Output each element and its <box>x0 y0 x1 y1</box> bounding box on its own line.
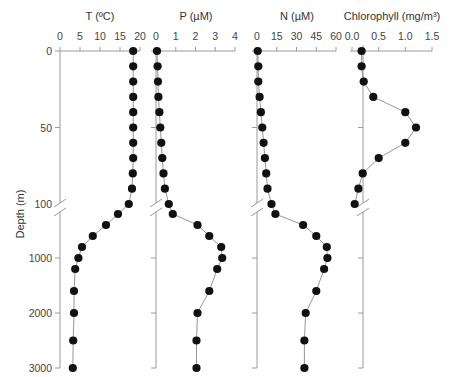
depth-tick-label: 100 <box>34 198 52 210</box>
data-point <box>263 185 271 193</box>
data-point <box>401 139 409 147</box>
profile-line <box>73 51 133 368</box>
depth-tick-label: 50 <box>40 122 52 134</box>
data-point <box>154 62 162 70</box>
data-point <box>161 185 169 193</box>
x-tick-label: 2 <box>193 30 199 42</box>
data-point <box>358 47 366 55</box>
data-point <box>254 78 262 86</box>
data-point <box>154 78 162 86</box>
data-point <box>159 169 167 177</box>
data-point <box>193 309 201 317</box>
data-point <box>258 123 266 131</box>
data-point <box>300 364 308 372</box>
panel-title: P (µM) <box>179 10 212 22</box>
data-point <box>129 47 137 55</box>
data-point <box>401 108 409 116</box>
panel-n: N (µM)015304560 <box>251 10 342 372</box>
data-point <box>129 169 137 177</box>
data-point <box>312 232 320 240</box>
data-point <box>71 265 79 273</box>
data-point <box>129 139 137 147</box>
data-point <box>89 232 97 240</box>
x-tick-label: 4 <box>232 30 238 42</box>
data-point <box>351 200 359 208</box>
x-tick-label: 0.5 <box>371 30 386 42</box>
data-point <box>359 169 367 177</box>
data-point <box>193 221 201 229</box>
x-tick-label: 1.5 <box>425 30 440 42</box>
depth-axis-labels: 050100100020003000 <box>29 45 53 374</box>
data-point <box>254 62 262 70</box>
x-tick-label: 1.0 <box>398 30 413 42</box>
data-point <box>375 154 383 162</box>
profile-panels: T (ºC)05101520P (µM)01234N (µM)015304560… <box>54 10 440 372</box>
data-point <box>262 169 270 177</box>
depth-tick-label: 0 <box>46 45 52 57</box>
data-point <box>323 243 331 251</box>
x-tick-label: 45 <box>310 30 322 42</box>
data-point <box>129 154 137 162</box>
data-point <box>205 287 213 295</box>
data-point <box>205 232 213 240</box>
x-tick-label: 30 <box>291 30 303 42</box>
data-point <box>320 265 328 273</box>
data-point <box>299 221 307 229</box>
data-point <box>312 287 320 295</box>
x-tick-label: 15 <box>114 30 126 42</box>
data-point <box>360 78 368 86</box>
data-point <box>78 243 86 251</box>
data-point <box>192 364 200 372</box>
data-point <box>69 364 77 372</box>
data-point <box>125 200 133 208</box>
data-point <box>323 254 331 262</box>
data-point <box>157 139 165 147</box>
depth-tick-label: 2000 <box>29 307 53 319</box>
data-point <box>169 210 177 218</box>
data-point <box>70 309 78 317</box>
data-point <box>129 108 137 116</box>
data-point <box>155 108 163 116</box>
profile-line <box>157 51 222 368</box>
data-point <box>154 93 162 101</box>
data-point <box>267 200 275 208</box>
data-point <box>254 47 262 55</box>
x-tick-label: 10 <box>94 30 106 42</box>
data-point <box>412 123 420 131</box>
depth-profile-chart: 050100100020003000 Depth (m) T (ºC)05101… <box>0 0 452 377</box>
data-point <box>128 185 136 193</box>
data-point <box>358 62 366 70</box>
data-point <box>156 123 164 131</box>
depth-tick-label: 1000 <box>29 252 53 264</box>
data-point <box>271 210 279 218</box>
x-tick-label: 0 <box>254 30 260 42</box>
x-tick-label: 3 <box>212 30 218 42</box>
panel-p: P (µM)01234 <box>150 10 238 372</box>
data-point <box>300 336 308 344</box>
data-point <box>213 265 221 273</box>
data-point <box>153 47 161 55</box>
x-tick-label: 20 <box>134 30 146 42</box>
data-point <box>74 254 82 262</box>
x-tick-label: 15 <box>271 30 283 42</box>
data-point <box>165 200 173 208</box>
data-point <box>114 210 122 218</box>
x-tick-label: 0 <box>153 30 159 42</box>
data-point <box>70 287 78 295</box>
data-point <box>260 139 268 147</box>
data-point <box>369 93 377 101</box>
depth-tick-label: 3000 <box>29 362 53 374</box>
data-point <box>102 221 110 229</box>
data-point <box>218 254 226 262</box>
x-tick-label: 0.0 <box>345 30 360 42</box>
data-point <box>302 309 310 317</box>
data-point <box>158 154 166 162</box>
data-point <box>69 336 77 344</box>
panel-t: T (ºC)05101520 <box>54 10 146 372</box>
data-point <box>192 336 200 344</box>
data-point <box>217 243 225 251</box>
data-point <box>129 93 137 101</box>
x-tick-label: 1 <box>173 30 179 42</box>
profile-line <box>258 51 328 368</box>
data-point <box>261 154 269 162</box>
